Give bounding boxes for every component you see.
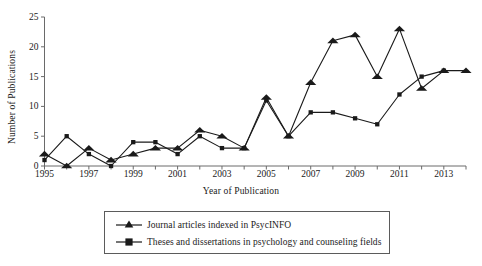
y-tick-label: 15 bbox=[15, 72, 39, 82]
x-axis-title: Year of Publication bbox=[0, 186, 482, 196]
x-tick-label: 2007 bbox=[301, 169, 320, 179]
legend-item-theses-dissertations: Theses and dissertations in psychology a… bbox=[115, 233, 389, 250]
x-tick-label: 2013 bbox=[434, 169, 453, 179]
x-tick-label: 2005 bbox=[257, 169, 276, 179]
chart-legend: Journal articles indexed in PsycINFO The… bbox=[104, 211, 390, 254]
x-tick-label: 2009 bbox=[346, 169, 365, 179]
x-tick-label: 1995 bbox=[35, 169, 54, 179]
x-tick-label: 2011 bbox=[390, 169, 409, 179]
triangle-marker-icon bbox=[115, 218, 143, 232]
legend-label-journal-articles: Journal articles indexed in PsycINFO bbox=[147, 220, 291, 230]
x-tick-label: 2003 bbox=[212, 169, 231, 179]
legend-item-journal-articles: Journal articles indexed in PsycINFO bbox=[115, 216, 389, 233]
y-tick-label: 5 bbox=[15, 131, 39, 141]
publication-trend-chart: Number of Publications Year of Publicati… bbox=[0, 0, 482, 266]
y-tick-label: 10 bbox=[15, 101, 39, 111]
legend-label-theses-dissertations: Theses and dissertations in psychology a… bbox=[147, 237, 381, 247]
x-tick-label: 1999 bbox=[124, 169, 143, 179]
square-marker-icon bbox=[115, 235, 143, 249]
y-tick-label: 25 bbox=[15, 12, 39, 22]
y-tick-label: 20 bbox=[15, 42, 39, 52]
x-tick-label: 1997 bbox=[79, 169, 98, 179]
x-tick-label: 2001 bbox=[168, 169, 187, 179]
